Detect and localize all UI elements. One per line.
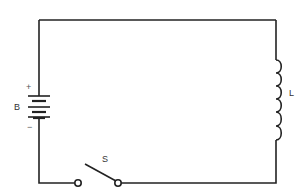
battery-symbol: [28, 96, 50, 118]
switch-symbol: [75, 164, 121, 186]
right-wire-lower: [121, 140, 276, 183]
battery-positive-label: +: [26, 82, 31, 92]
switch-label: S: [102, 154, 108, 164]
switch-lever: [85, 164, 116, 181]
battery-label: B: [14, 102, 20, 112]
switch-terminal-left: [75, 180, 81, 186]
inductor-coil: [276, 60, 281, 140]
left-wire-lower: [39, 118, 75, 183]
inductor-label: L: [289, 88, 294, 98]
battery-negative-label: −: [27, 122, 32, 132]
circuit-diagram: + B − L S: [0, 0, 300, 196]
